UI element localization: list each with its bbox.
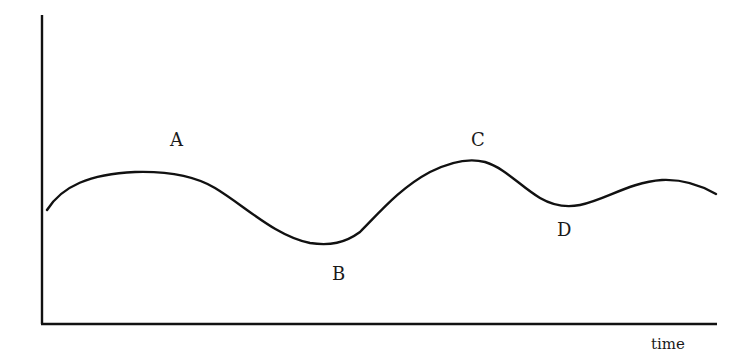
diagram: A B C D time (0, 0, 753, 363)
diagram-canvas: A B C D time (0, 0, 753, 363)
point-label-c: C (471, 129, 485, 150)
x-axis-label: time (651, 335, 685, 353)
point-label-d: D (557, 219, 571, 240)
point-label-a: A (169, 129, 184, 150)
point-label-b: B (332, 263, 345, 284)
wave-curve (47, 160, 716, 244)
